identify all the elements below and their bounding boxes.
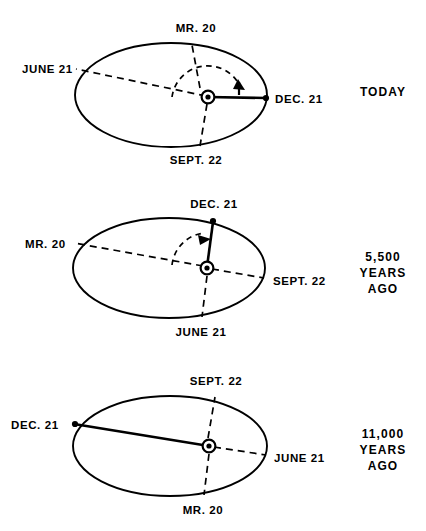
caption-5500-line3: AGO [368,282,399,296]
panel-today: MR. 20 JUNE 21 DEC. 21 SEPT. 22 TODAY [22,22,406,166]
label-sept-22-5500: SEPT. 22 [273,275,326,287]
caption-5500-line1: 5,500 [365,250,401,264]
axis-dec-21-11000 [74,424,209,446]
panel-11000-years-ago: SEPT. 22 DEC. 21 JUNE 21 MR. 20 11,000 Y… [11,375,406,516]
precession-diagram-canvas: MR. 20 JUNE 21 DEC. 21 SEPT. 22 TODAY DE… [0,0,426,531]
axis-sept-22-11000 [208,397,215,438]
label-june-21-5500: JUNE 21 [176,326,227,338]
precession-diagram-figure: MR. 20 JUNE 21 DEC. 21 SEPT. 22 TODAY DE… [0,0,426,531]
label-dec-21-today: DEC. 21 [275,93,323,105]
panel-5500-years-ago: DEC. 21 MR. 20 SEPT. 22 JUNE 21 5,500 YE… [25,198,406,338]
label-mr-20-5500: MR. 20 [25,238,66,250]
perihelion-marker-today [263,95,269,101]
orbit-ellipse-5500 [73,218,265,318]
label-mr-20-11000: MR. 20 [183,504,224,516]
perihelion-marker-5500 [210,218,216,224]
caption-today: TODAY [360,85,406,99]
sun-center-dot-11000 [206,443,211,448]
axis-dec-21-5500 [207,222,213,267]
label-sept-22-today: SEPT. 22 [170,154,223,166]
caption-11000-line3: AGO [368,459,399,473]
caption-5500-line2: YEARS [360,266,407,280]
sun-center-dot-5500 [204,265,209,270]
axis-sept-22-today [200,104,207,146]
axis-sept-22-5500 [212,269,264,278]
axis-dec-21-today [208,97,266,98]
axis-mr-20-5500 [74,243,203,266]
caption-11000-line2: YEARS [360,443,407,457]
label-mr-20-today: MR. 20 [176,22,217,34]
caption-11000-line1: 11,000 [362,427,405,441]
label-june-21-today: JUNE 21 [22,63,73,75]
label-june-21-11000: JUNE 21 [274,452,325,464]
sun-center-dot-today [205,94,210,99]
axis-june-21-11000 [214,447,266,455]
label-sept-22-11000: SEPT. 22 [190,375,243,387]
label-dec-21-5500: DEC. 21 [190,198,238,210]
axis-mr-20-11000 [204,454,209,495]
axis-june-21-5500 [202,276,207,317]
orbit-ellipse-11000 [73,396,267,496]
perihelion-marker-11000 [72,421,78,427]
label-dec-21-11000: DEC. 21 [11,419,59,431]
axis-june-21-today [76,69,206,96]
